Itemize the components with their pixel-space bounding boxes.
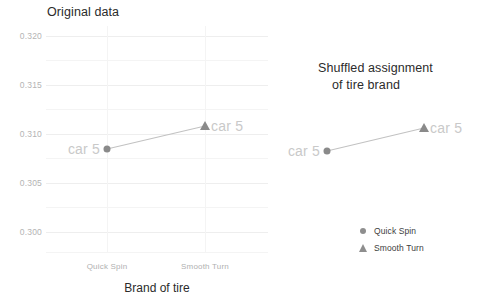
y-axis-tick-labels: 0.320 0.315 0.310 0.305 0.300 <box>0 26 42 253</box>
gridline-y-0305 <box>46 183 268 184</box>
gridline-y-minor-3 <box>46 158 268 159</box>
legend-label: Smooth Turn <box>374 243 424 253</box>
left-plot-panel <box>46 26 268 253</box>
right-panel-title-line2: of tire brand <box>318 77 433 94</box>
data-point-label-right-smooth-turn: car 5 <box>430 120 462 136</box>
gridline-y-minor-1 <box>46 60 268 61</box>
y-tick-label: 0.320 <box>2 31 42 41</box>
gridline-y-minor-5 <box>46 252 268 253</box>
gridline-y-0300 <box>46 232 268 233</box>
data-point-circle-left-quick-spin[interactable] <box>104 146 111 153</box>
gridline-y-minor-4 <box>46 207 268 208</box>
gridline-y-minor-2 <box>46 109 268 110</box>
data-point-circle-right-quick-spin[interactable] <box>324 148 331 155</box>
right-panel-connector-line <box>327 128 424 151</box>
legend-item-smooth-turn[interactable]: Smooth Turn <box>352 239 472 256</box>
triangle-marker-icon <box>352 244 374 252</box>
right-panel-title: Shuffled assignment of tire brand <box>318 60 433 94</box>
gridline-y-0315 <box>46 85 268 86</box>
data-point-label-left-quick-spin: car 5 <box>68 141 100 157</box>
circle-marker-icon <box>352 228 374 234</box>
x-tick-label: Quick Spin <box>87 262 128 271</box>
data-point-triangle-left-smooth-turn[interactable] <box>200 121 210 130</box>
gridline-y-0310 <box>46 134 268 135</box>
y-tick-label: 0.300 <box>2 227 42 237</box>
y-tick-label: 0.315 <box>2 80 42 90</box>
legend-label: Quick Spin <box>374 226 416 236</box>
figure-canvas: Original data Shuffled assignment of tir… <box>0 0 484 302</box>
x-axis-tick-labels: Quick Spin Smooth Turn <box>46 262 268 276</box>
gridline-y-0320 <box>46 36 268 37</box>
y-tick-label: 0.310 <box>2 129 42 139</box>
left-panel-title: Original data <box>47 5 119 19</box>
gridline-x-quick-spin <box>107 26 108 253</box>
x-axis-title: Brand of tire <box>46 281 268 295</box>
right-panel-title-line1: Shuffled assignment <box>318 61 433 75</box>
x-tick-label: Smooth Turn <box>181 262 229 271</box>
data-point-label-left-smooth-turn: car 5 <box>211 118 243 134</box>
legend: Quick Spin Smooth Turn <box>352 222 472 256</box>
legend-item-quick-spin[interactable]: Quick Spin <box>352 222 472 239</box>
data-point-triangle-right-smooth-turn[interactable] <box>419 123 429 132</box>
data-point-label-right-quick-spin: car 5 <box>288 143 320 159</box>
y-tick-label: 0.305 <box>2 178 42 188</box>
gridline-x-smooth-turn <box>205 26 206 253</box>
